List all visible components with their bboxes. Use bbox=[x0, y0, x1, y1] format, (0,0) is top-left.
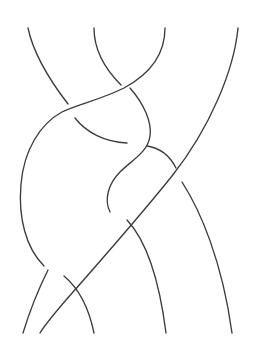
braid-svg bbox=[0, 0, 254, 341]
braid-diagram-canvas bbox=[0, 0, 254, 341]
